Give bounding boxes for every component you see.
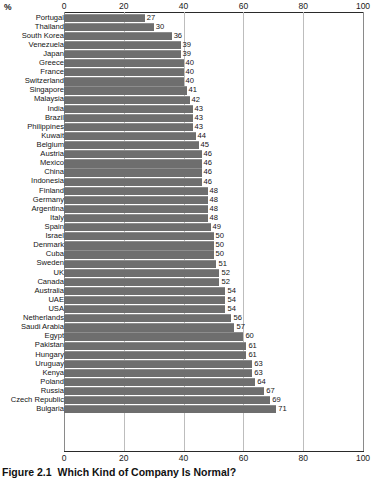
category-label: Egypt [0,331,64,340]
category-label: Thailand [0,22,64,31]
bar [64,342,246,350]
bar-value-label: 54 [227,286,235,295]
category-label: Sweden [0,258,64,267]
bar [64,314,231,322]
category-label: Russia [0,386,64,395]
category-label: USA [0,304,64,313]
bar [64,123,193,131]
bar-value-label: 46 [204,177,212,186]
bar [64,296,225,304]
bar-value-label: 27 [147,13,155,22]
bar [64,351,246,359]
category-label: Cuba [0,249,64,258]
category-label: Malaysia [0,94,64,103]
bar-value-label: 44 [198,131,206,140]
bar [64,378,255,386]
bar [64,323,234,331]
category-label: Kuwait [0,131,64,140]
bar-value-label: 52 [221,268,229,277]
category-label: Bulgaria [0,404,64,413]
category-label: Hungary [0,350,64,359]
bar [64,187,208,195]
figure-title: Which Kind of Company Is Normal? [58,466,237,478]
axis-tick-40: 40 [179,452,188,464]
bar-value-label: 46 [204,149,212,158]
category-label: France [0,67,64,76]
bar [64,150,202,158]
category-label: Australia [0,286,64,295]
bar-value-label: 46 [204,158,212,167]
category-label: South Korea [0,31,64,40]
axis-tick-0: 0 [62,452,67,464]
bar [64,159,202,167]
axis-unit-label: % [4,1,12,13]
category-label: Switzerland [0,76,64,85]
category-label: China [0,167,64,176]
bar-value-label: 50 [216,249,224,258]
bottom-axis: 020406080100 [0,452,386,466]
bar [64,14,145,22]
category-label: Portugal [0,13,64,22]
bar [64,168,202,176]
bar-rows: Portugal27Thailand30South Korea36Venezue… [0,13,386,414]
bar [64,96,190,104]
bar-value-label: 40 [186,76,194,85]
axis-tick-60: 60 [239,452,248,464]
category-label: Saudi Arabia [0,322,64,331]
bar-value-label: 50 [216,231,224,240]
category-label: Czech Republic [0,395,64,404]
bar [64,196,208,204]
category-label: Mexico [0,158,64,167]
bar-value-label: 61 [248,350,256,359]
bar [64,250,214,258]
bar-value-label: 61 [248,341,256,350]
category-label: India [0,104,64,113]
bar-value-label: 40 [186,67,194,76]
bar [64,214,208,222]
category-label: Austria [0,149,64,158]
bar-value-label: 46 [204,167,212,176]
bar [64,269,219,277]
bar-value-label: 40 [186,58,194,67]
figure-number: Figure 2.1 [2,466,52,478]
bar [64,178,202,186]
bar-value-label: 45 [201,140,209,149]
category-label: Pakistan [0,340,64,349]
bar-value-label: 48 [210,204,218,213]
category-label: Brazil [0,113,64,122]
bar-value-label: 48 [210,213,218,222]
bar [64,305,225,313]
category-label: UAE [0,295,64,304]
bar [64,50,181,58]
bar-value-label: 60 [245,331,253,340]
category-label: Argentina [0,204,64,213]
category-label: Indonesia [0,176,64,185]
bar-value-label: 51 [218,259,226,268]
bar-row: Bulgaria71 [0,405,386,414]
bar [64,360,252,368]
axis-tick-80: 80 [298,452,307,464]
category-label: Japan [0,49,64,58]
axis-tick-40: 40 [179,0,188,12]
bar [64,287,225,295]
axis-tick-20: 20 [119,452,128,464]
bar-value-label: 56 [233,313,241,322]
bar-value-label: 49 [213,222,221,231]
bar [64,32,172,40]
bar [64,332,243,340]
bar-value-label: 54 [227,295,235,304]
category-label: Spain [0,222,64,231]
bar-value-label: 36 [174,31,182,40]
bar [64,205,208,213]
bar-value-label: 50 [216,240,224,249]
category-label: UK [0,268,64,277]
category-label: Denmark [0,240,64,249]
bar-value-label: 30 [156,22,164,31]
category-label: Venezuela [0,40,64,49]
figure-caption: Figure 2.1Which Kind of Company Is Norma… [2,466,386,478]
bar [64,114,193,122]
bar-value-label: 39 [183,49,191,58]
axis-tick-100: 100 [356,0,370,12]
bar-value-label: 64 [257,377,265,386]
category-label: Canada [0,277,64,286]
